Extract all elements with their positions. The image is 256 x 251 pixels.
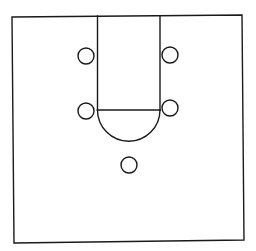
player-marker-left-high (78, 48, 94, 64)
half-court-diagram (0, 0, 256, 251)
player-marker-right-high (162, 47, 178, 63)
free-throw-semicircle (98, 110, 161, 141)
player-marker-left-elbow (78, 103, 94, 119)
court-boundary (12, 15, 244, 243)
player-marker-top-key (121, 157, 137, 173)
player-marker-right-elbow (162, 100, 178, 116)
